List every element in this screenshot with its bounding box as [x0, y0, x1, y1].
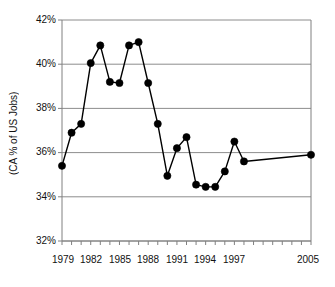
gridlines-group — [62, 20, 311, 241]
data-point-1983 — [97, 42, 104, 49]
plot-area — [0, 0, 335, 287]
series-markers-group — [58, 39, 314, 191]
data-point-1986 — [125, 42, 132, 49]
data-point-1985 — [116, 79, 123, 86]
data-point-1984 — [106, 78, 113, 85]
data-point-1993 — [192, 181, 199, 188]
data-point-1995 — [212, 183, 219, 190]
data-point-1991 — [173, 145, 180, 152]
data-point-1990 — [164, 172, 171, 179]
data-point-1988 — [145, 79, 152, 86]
data-point-2005 — [307, 151, 314, 158]
data-point-1982 — [87, 60, 94, 67]
data-point-1996 — [221, 168, 228, 175]
chart-container: (CA % of US Jobs) 42% 40% 38% 36% 34% 32… — [0, 0, 335, 287]
data-point-1980 — [68, 129, 75, 136]
data-point-1997 — [231, 138, 238, 145]
data-point-1998 — [240, 158, 247, 165]
data-point-1987 — [135, 39, 142, 46]
x-axis-ticks-group — [62, 241, 311, 245]
data-point-1994 — [202, 183, 209, 190]
data-point-1979 — [58, 162, 65, 169]
data-point-1992 — [183, 134, 190, 141]
data-point-1989 — [154, 120, 161, 127]
axis-lines-group — [62, 20, 311, 241]
data-point-1981 — [78, 120, 85, 127]
y-axis-ticks-group — [58, 20, 62, 241]
